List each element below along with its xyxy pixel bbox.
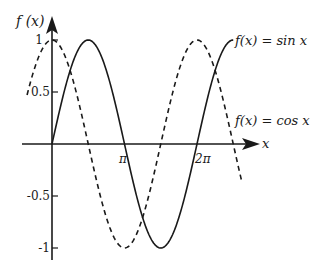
y-tick-label-0.5: 0.5 (31, 85, 50, 99)
sin-curve-label: f(x) = sin x (234, 33, 308, 48)
y-tick-label-1: 1 (35, 33, 43, 47)
x-tick-label-2pi: 2π (194, 152, 212, 166)
y-tick-label-neg0.5: -0.5 (27, 189, 50, 203)
x-tick-label-pi: π (118, 152, 128, 166)
cos-curve-label: f(x) = cos x (234, 113, 310, 128)
x-axis-label: x (262, 136, 270, 151)
trig-chart: f (x) x 1 0.5 -0.5 -1 π 2π f(x) = sin x … (0, 0, 320, 275)
y-axis-label: f (x) (15, 13, 44, 29)
y-tick-label-neg1: -1 (38, 241, 50, 255)
